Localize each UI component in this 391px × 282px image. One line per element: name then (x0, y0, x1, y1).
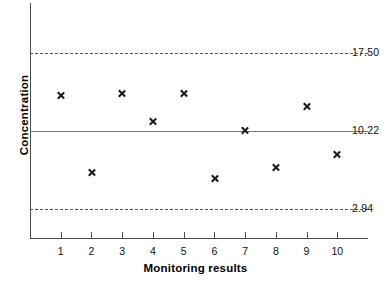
center-line-label: 10.22 (352, 124, 379, 136)
x-axis-tick-label: 10 (325, 245, 349, 257)
x-axis-tick (276, 232, 277, 239)
x-axis-title: Monitoring results (0, 262, 391, 274)
data-point-marker (87, 168, 96, 177)
x-axis-tick (307, 232, 308, 239)
y-axis-line (30, 3, 31, 239)
x-axis-tick (91, 232, 92, 239)
x-axis-tick (184, 232, 185, 239)
data-point-marker (56, 91, 65, 100)
x-axis-line (30, 238, 368, 239)
data-point-marker (210, 174, 219, 183)
y-axis-title: Concentration (18, 35, 30, 195)
x-axis-tick-label: 5 (172, 245, 196, 257)
center-line (30, 131, 368, 132)
x-axis-tick (122, 232, 123, 239)
data-point-marker (118, 89, 127, 98)
x-axis-tick-label: 4 (141, 245, 165, 257)
x-axis-tick-label: 9 (295, 245, 319, 257)
x-axis-tick-label: 6 (202, 245, 226, 257)
lower-control-limit-label: 2.94 (352, 202, 373, 214)
data-point-marker (179, 89, 188, 98)
x-axis-tick (337, 232, 338, 239)
x-axis-tick (214, 232, 215, 239)
x-axis-tick-label: 2 (79, 245, 103, 257)
upper-control-limit (30, 53, 368, 54)
x-axis-tick-label: 3 (110, 245, 134, 257)
upper-control-limit-label: 17.50 (352, 46, 379, 58)
x-axis-tick-label: 1 (49, 245, 73, 257)
x-axis-tick-label: 8 (264, 245, 288, 257)
data-point-marker (302, 102, 311, 111)
x-axis-tick (245, 232, 246, 239)
x-axis-tick (153, 232, 154, 239)
x-axis-tick (61, 232, 62, 239)
data-point-marker (148, 117, 157, 126)
control-chart: 17.5010.222.94 12345678910 Monitoring re… (0, 0, 391, 282)
data-point-marker (333, 150, 342, 159)
x-axis-tick-label: 7 (233, 245, 257, 257)
lower-control-limit (30, 209, 368, 210)
data-point-marker (271, 163, 280, 172)
